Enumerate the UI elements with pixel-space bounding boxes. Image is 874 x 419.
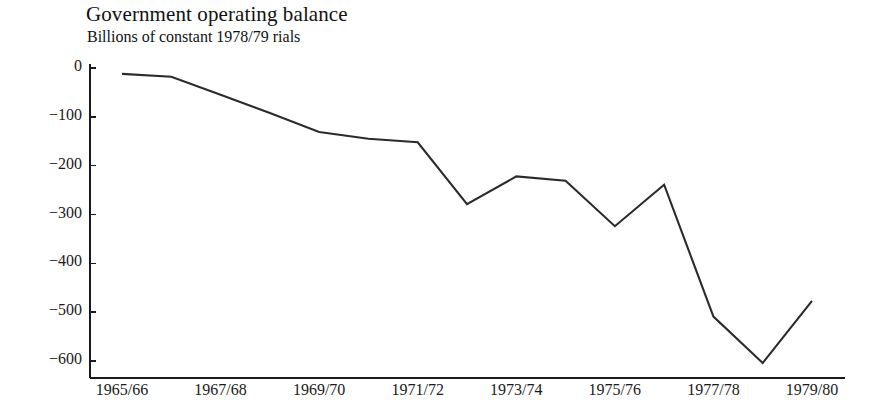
y-axis-ticks [90,68,96,361]
y-axis-tick-label: −400 [22,252,82,270]
x-axis-tick-label: 1967/68 [194,381,246,399]
y-axis-tick-label: −300 [22,204,82,222]
x-axis-tick-label: 1975/76 [589,381,641,399]
series-line-government-operating-balance [122,74,812,363]
y-axis-tick-label: −500 [22,301,82,319]
x-axis-tick-label: 1965/66 [96,381,148,399]
x-axis-tick-label: 1969/70 [293,381,345,399]
x-axis-tick-label: 1977/78 [687,381,739,399]
x-axis-tick-label: 1979/80 [786,381,838,399]
x-axis-tick-label: 1973/74 [490,381,542,399]
y-axis-tick-label: −100 [22,106,82,124]
chart-figure: Government operating balance Billions of… [0,0,874,419]
y-axis-tick-label: −200 [22,155,82,173]
y-axis-tick-label: 0 [22,57,82,75]
axes-group [90,64,845,378]
series-group [122,74,812,363]
y-axis-tick-label: −600 [22,350,82,368]
plot-area [0,0,874,419]
x-axis-tick-label: 1971/72 [391,381,443,399]
